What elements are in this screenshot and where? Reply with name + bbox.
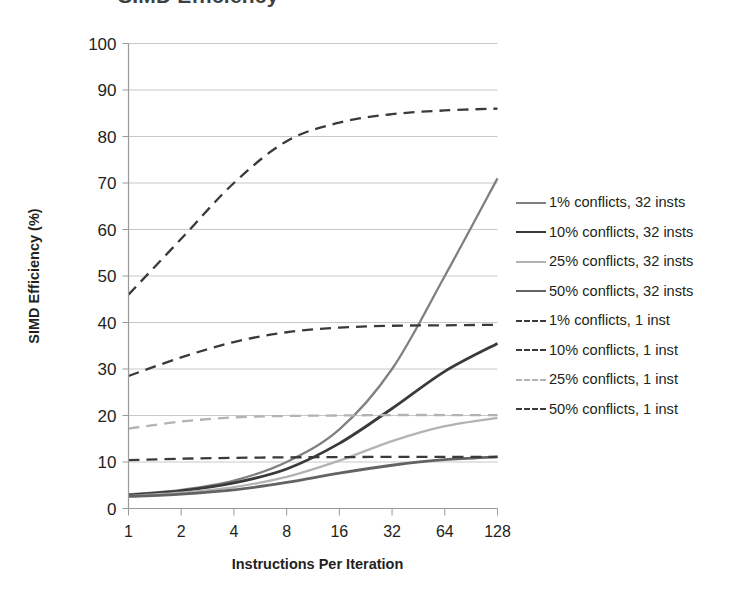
x-tick-marks	[129, 509, 498, 516]
legend-item-label: 25% conflicts, 1 inst	[549, 372, 678, 387]
y-tick-label: 90	[98, 81, 117, 100]
y-tick-label: 20	[98, 407, 117, 426]
legend-swatch-icon	[516, 197, 546, 209]
legend-item[interactable]: 1% conflicts, 32 insts	[516, 188, 741, 218]
x-tick-label: 16	[330, 523, 348, 540]
y-tick-label: 30	[98, 360, 117, 379]
y-tick-label: 80	[98, 128, 117, 147]
data-series-group	[129, 109, 498, 497]
legend-swatch-icon	[516, 315, 546, 327]
x-tick-label: 32	[383, 523, 401, 540]
legend-swatch-icon	[516, 256, 546, 268]
legend-item-label: 50% conflicts, 1 inst	[549, 402, 678, 417]
chart-legend: 1% conflicts, 32 insts10% conflicts, 32 …	[516, 188, 741, 424]
legend-item[interactable]: 10% conflicts, 1 inst	[516, 336, 741, 366]
legend-swatch-icon	[516, 403, 546, 415]
series-line	[129, 343, 498, 495]
legend-item-label: 50% conflicts, 32 insts	[549, 284, 693, 299]
legend-item[interactable]: 25% conflicts, 32 insts	[516, 247, 741, 277]
legend-swatch-icon	[516, 344, 546, 356]
legend-swatch-icon	[516, 374, 546, 386]
legend-item-label: 10% conflicts, 32 insts	[549, 225, 693, 240]
legend-swatch-icon	[516, 226, 546, 238]
y-tick-marks	[123, 44, 129, 509]
y-tick-label: 100	[88, 35, 116, 54]
legend-item[interactable]: 10% conflicts, 32 insts	[516, 218, 741, 248]
legend-item-label: 10% conflicts, 1 inst	[549, 343, 678, 358]
x-tick-label: 1	[124, 523, 133, 540]
legend-item-label: 1% conflicts, 1 inst	[549, 313, 670, 328]
x-tick-label: 2	[177, 523, 186, 540]
chart-canvas: 0102030405060708090100 1248163264128	[0, 0, 520, 545]
legend-item-label: 25% conflicts, 32 insts	[549, 254, 693, 269]
x-tick-label: 128	[484, 523, 511, 540]
y-tick-label: 0	[107, 500, 116, 519]
legend-item[interactable]: 50% conflicts, 1 inst	[516, 395, 741, 425]
series-line	[129, 325, 498, 376]
legend-item[interactable]: 1% conflicts, 1 inst	[516, 306, 741, 336]
y-tick-labels: 0102030405060708090100	[88, 35, 116, 519]
y-tick-label: 70	[98, 174, 117, 193]
legend-swatch-icon	[516, 285, 546, 297]
y-tick-label: 60	[98, 221, 117, 240]
series-line	[129, 178, 498, 494]
gridlines	[129, 44, 498, 509]
x-tick-label: 4	[229, 523, 238, 540]
x-tick-labels: 1248163264128	[124, 523, 511, 540]
y-tick-label: 40	[98, 314, 117, 333]
legend-item-label: 1% conflicts, 32 insts	[549, 195, 685, 210]
x-tick-label: 64	[436, 523, 454, 540]
legend-item[interactable]: 50% conflicts, 32 insts	[516, 277, 741, 307]
y-tick-label: 50	[98, 267, 117, 286]
plot-area: 0102030405060708090100 1248163264128	[0, 0, 520, 545]
y-tick-label: 10	[98, 453, 117, 472]
x-tick-label: 8	[282, 523, 291, 540]
legend-item[interactable]: 25% conflicts, 1 inst	[516, 365, 741, 395]
chart-page: SIMD Efficiency SIMD Efficiency (%) 0102…	[0, 0, 743, 597]
x-axis-title: Instructions Per Iteration	[130, 556, 505, 572]
